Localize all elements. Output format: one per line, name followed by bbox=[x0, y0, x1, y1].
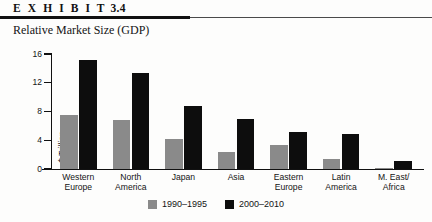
exhibit-heading: E X H I B I T3.4 bbox=[13, 2, 126, 14]
exhibit-number: 3.4 bbox=[111, 2, 126, 14]
legend-label: 1990–1995 bbox=[162, 199, 207, 209]
y-tick-label-12: 12 bbox=[2, 78, 42, 87]
category-label-line: M. East/ bbox=[361, 172, 426, 182]
bar bbox=[132, 73, 150, 169]
bar bbox=[237, 119, 255, 169]
exhibit-page: E X H I B I T3.4 Relative Market Size (G… bbox=[0, 0, 432, 222]
legend-item: 1990–1995 bbox=[148, 199, 207, 209]
bar bbox=[323, 159, 341, 169]
x-axis-category-label: M. East/Africa bbox=[361, 172, 426, 192]
bar bbox=[113, 120, 131, 169]
y-tick-12 bbox=[44, 82, 52, 83]
category-label-line: America bbox=[99, 182, 164, 192]
legend-label: 2000–2010 bbox=[239, 199, 284, 209]
bar bbox=[165, 139, 183, 169]
bar bbox=[375, 168, 393, 169]
y-tick-16 bbox=[44, 53, 52, 54]
chart-legend: 1990–19952000–2010 bbox=[0, 199, 432, 209]
bar-group bbox=[323, 54, 360, 169]
y-tick-4 bbox=[44, 140, 52, 141]
bar bbox=[342, 134, 360, 169]
y-tick-8 bbox=[44, 111, 52, 112]
chart-title: Relative Market Size (GDP) bbox=[13, 23, 149, 38]
header-rule-thin bbox=[190, 17, 432, 18]
category-label-line: Africa bbox=[361, 182, 426, 192]
y-tick-label-0: 0 bbox=[2, 165, 42, 174]
y-tick-label-8: 8 bbox=[2, 107, 42, 116]
bar bbox=[184, 106, 202, 169]
legend-item: 2000–2010 bbox=[225, 199, 284, 209]
legend-swatch-icon bbox=[148, 200, 157, 209]
y-tick-0 bbox=[44, 168, 52, 169]
header-rule-thick bbox=[0, 16, 190, 19]
bar-group bbox=[60, 54, 97, 169]
bar bbox=[218, 152, 236, 169]
bar-group bbox=[113, 54, 150, 169]
bar-group bbox=[270, 54, 307, 169]
bar bbox=[79, 60, 97, 169]
bar bbox=[394, 161, 412, 169]
bar bbox=[270, 145, 288, 169]
bar bbox=[60, 115, 78, 169]
bar-group bbox=[218, 54, 255, 169]
y-tick-label-4: 4 bbox=[2, 136, 42, 145]
bar-group bbox=[375, 54, 412, 169]
header-rule bbox=[0, 16, 432, 20]
y-tick-label-16: 16 bbox=[2, 50, 42, 59]
plot-area: $ Trillion bbox=[52, 54, 420, 169]
bar-group bbox=[165, 54, 202, 169]
exhibit-label: E X H I B I T bbox=[13, 2, 107, 14]
bar bbox=[289, 132, 307, 169]
legend-swatch-icon bbox=[225, 200, 234, 209]
